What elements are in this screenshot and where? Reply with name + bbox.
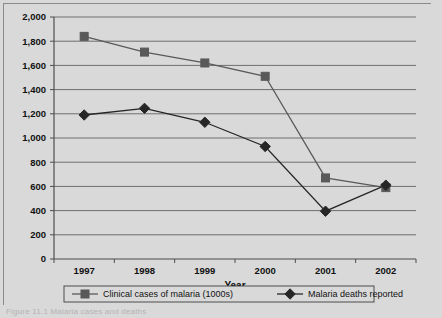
y-axis-tick-label: 2,000	[22, 11, 46, 22]
x-axis-tick-label: 1997	[74, 265, 95, 276]
x-axis-tick-label: 1998	[134, 265, 155, 276]
data-point-marker	[141, 48, 149, 56]
y-axis-tick-label: 1,600	[22, 60, 46, 71]
y-axis-tick-label: 1,200	[22, 108, 46, 119]
x-axis-tick-label: 1999	[194, 265, 215, 276]
y-axis-tick-label: 1,000	[22, 132, 46, 143]
y-axis-tick-label: 1,400	[22, 84, 46, 95]
data-point-marker	[81, 290, 89, 298]
data-point-marker	[201, 59, 209, 67]
line-chart: 02004006008001,0001,2001,4001,6001,8002,…	[4, 4, 432, 306]
x-axis-tick-label: 2000	[255, 265, 276, 276]
figure-caption: Figure 11.1 Malaria cases and deaths	[6, 307, 146, 316]
x-axis-tick-label: 2001	[315, 265, 337, 276]
y-axis-tick-label: 600	[30, 181, 46, 192]
data-point-marker	[80, 32, 88, 40]
figure-container: 02004006008001,0001,2001,4001,6001,8002,…	[0, 0, 442, 318]
data-point-marker	[261, 72, 269, 80]
y-axis-tick-label: 200	[30, 229, 46, 240]
data-point-marker	[322, 174, 330, 182]
y-axis-tick-label: 800	[30, 157, 46, 168]
x-axis-tick-label: 2002	[375, 265, 396, 276]
legend-label-2: Malaria deaths reported	[308, 289, 403, 299]
chart-background	[4, 4, 432, 306]
y-axis-tick-label: 0	[41, 253, 46, 264]
chart-legend: Clinical cases of malaria (1000s)Malaria…	[64, 286, 403, 302]
y-axis-tick-label: 1,800	[22, 36, 46, 47]
chart-frame: 02004006008001,0001,2001,4001,6001,8002,…	[3, 3, 431, 305]
y-axis-tick-label: 400	[30, 205, 46, 216]
legend-label-1: Clinical cases of malaria (1000s)	[103, 289, 233, 299]
